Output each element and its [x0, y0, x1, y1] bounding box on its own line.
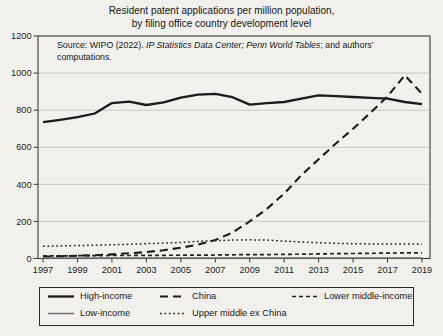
source-note-italic: IP Statistics Data Center; Penn World Ta…: [146, 40, 320, 50]
x-tick-label: 2017: [377, 265, 397, 275]
legend-item-upper-middle-ex-china: Upper middle ex China: [160, 308, 287, 318]
source-note-prefix: Source: WIPO (2022).: [57, 40, 146, 50]
y-tick-label: 400: [16, 180, 31, 190]
legend-label-high-income: High-income: [80, 291, 132, 301]
legend-label-lower-middle-income: Lower middle-income: [324, 291, 412, 301]
x-tick-label: 1999: [67, 265, 87, 275]
x-tick-label: 2001: [102, 265, 122, 275]
legend-item-lower-middle-income: Lower middle-income: [292, 291, 412, 301]
x-tick-label: 2013: [308, 265, 328, 275]
x-tick-label: 2009: [240, 265, 260, 275]
legend-row-1: High-incomeChinaLower middle-income: [40, 291, 413, 307]
y-tick-label: 800: [16, 105, 31, 115]
legend-swatch-high-income-line: [48, 292, 74, 301]
legend-swatch-upper-middle-ex-china-line: [160, 309, 186, 318]
x-tick-label: 2015: [343, 265, 363, 275]
x-tick-label: 2019: [412, 265, 432, 275]
x-tick-label: 1997: [33, 265, 53, 275]
legend-swatch-china-line: [160, 292, 186, 301]
y-tick-label: 600: [16, 142, 31, 152]
patent-chart-figure: Resident patent applications per million…: [0, 0, 443, 336]
source-note-suffix: ; and authors': [320, 40, 373, 50]
legend-label-upper-middle-ex-china: Upper middle ex China: [192, 308, 287, 318]
series-line-upper-middle-ex-china: [43, 240, 422, 247]
legend-row-2: Low-incomeUpper middle ex China: [40, 308, 413, 324]
legend-label-china: China: [192, 291, 216, 301]
series-line-china: [43, 75, 422, 256]
y-tick-label: 200: [16, 217, 31, 227]
legend-item-low-income: Low-income: [48, 308, 130, 318]
x-tick-label: 2011: [274, 265, 294, 275]
legend-swatch-low-income-line: [48, 309, 74, 318]
x-tick-label: 2003: [136, 265, 156, 275]
x-tick-label: 2005: [171, 265, 191, 275]
legend-label-low-income: Low-income: [80, 308, 130, 318]
legend-item-china: China: [160, 291, 216, 301]
y-tick-label: 0: [26, 254, 31, 264]
legend-swatch-lower-middle-income-line: [292, 292, 318, 301]
source-note: Source: WIPO (2022). IP Statistics Data …: [57, 40, 409, 63]
y-tick-label: 1200: [11, 31, 31, 41]
legend-box: High-incomeChinaLower middle-incomeLow-i…: [39, 287, 414, 326]
x-tick-label: 2007: [205, 265, 225, 275]
source-note-line2: computations.: [57, 52, 112, 62]
y-tick-label: 1000: [11, 68, 31, 78]
legend-item-high-income: High-income: [48, 291, 132, 301]
